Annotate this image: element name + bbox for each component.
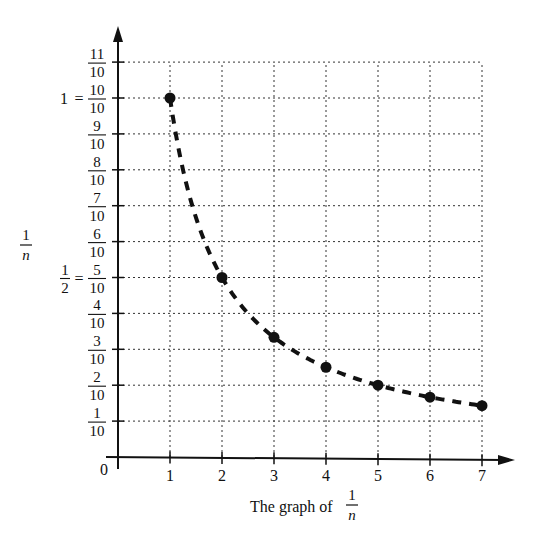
y-tick-denominator: 10 [90, 172, 105, 188]
y-tick-prefix-numerator: 1 [61, 262, 69, 278]
y-tick-numerator: 7 [93, 190, 101, 206]
data-point [165, 93, 176, 104]
y-tick-denominator: 10 [90, 351, 105, 367]
x-axis-arrow-icon [498, 455, 515, 465]
chart-caption: The graph of 1 n [250, 487, 358, 523]
y-tick-numerator: 3 [93, 333, 101, 349]
x-tick-label: 5 [374, 467, 382, 484]
caption-fraction-denominator: n [348, 507, 356, 523]
caption-fraction-numerator: 1 [348, 487, 356, 503]
y-tick-label: 810 [88, 154, 106, 188]
x-tick-label: 7 [478, 467, 486, 484]
data-point [321, 362, 332, 373]
data-point [269, 332, 280, 343]
data-point [425, 392, 436, 403]
y-tick-numerator: 9 [93, 118, 101, 134]
y-tick-denominator: 10 [90, 244, 105, 260]
y-tick-label: 710 [88, 190, 106, 224]
y-tick-denominator: 10 [90, 280, 105, 296]
y-tick-equals: = [74, 90, 83, 107]
y-tick-denominator: 10 [90, 136, 105, 152]
y-tick-label: 10101= [60, 82, 106, 116]
y-axis-label-numerator: 1 [22, 227, 30, 243]
y-tick-numerator: 11 [90, 46, 104, 62]
x-tick-label: 4 [322, 467, 330, 484]
data-point [477, 400, 488, 411]
x-tick-label: 1 [166, 467, 174, 484]
y-tick-label: 210 [88, 369, 106, 403]
y-tick-prefix: 1 [60, 90, 68, 107]
y-tick-numerator: 1 [93, 405, 101, 421]
y-axis-arrow-icon [113, 26, 123, 42]
x-tick-label: 2 [218, 467, 226, 484]
x-axis [106, 457, 505, 460]
y-axis-label: 1 n [20, 227, 32, 263]
caption-text: The graph of [250, 498, 333, 516]
y-tick-numerator: 4 [93, 297, 101, 313]
y-tick-numerator: 5 [93, 262, 101, 278]
data-point [217, 272, 228, 283]
y-tick-label: 310 [88, 333, 106, 367]
y-axis-tick-labels: 11021031041051012=61071081091010101=1110 [60, 46, 106, 439]
y-axis-label-denominator: n [22, 247, 30, 263]
y-tick-label: 1110 [88, 46, 106, 80]
x-axis-tick-labels: 1234567 [166, 467, 486, 484]
y-tick-numerator: 10 [90, 82, 105, 98]
y-tick-denominator: 10 [90, 100, 105, 116]
y-tick-denominator: 10 [90, 315, 105, 331]
x-tick-label: 6 [426, 467, 434, 484]
y-tick-label: 910 [88, 118, 106, 152]
y-tick-denominator: 10 [90, 208, 105, 224]
y-tick-numerator: 8 [93, 154, 101, 170]
y-tick-equals: = [74, 270, 83, 287]
x-tick-label: 3 [270, 467, 278, 484]
chart: 11021031041051012=61071081091010101=1110… [0, 0, 534, 538]
y-tick-numerator: 2 [93, 369, 101, 385]
y-tick-prefix-denominator: 2 [61, 280, 69, 296]
y-tick-denominator: 10 [90, 423, 105, 439]
y-tick-denominator: 10 [90, 387, 105, 403]
y-tick-label: 110 [88, 405, 106, 439]
data-point [373, 380, 384, 391]
y-tick-label: 51012= [60, 262, 106, 296]
y-tick-label: 610 [88, 226, 106, 260]
y-tick-denominator: 10 [90, 64, 105, 80]
origin-label: 0 [100, 461, 108, 478]
y-tick-numerator: 6 [93, 226, 101, 242]
y-tick-label: 410 [88, 297, 106, 331]
